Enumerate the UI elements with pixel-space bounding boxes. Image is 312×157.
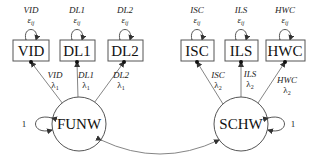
svg-text:ILS: ILS (243, 69, 257, 79)
svg-text:εij: εij (122, 15, 129, 26)
svg-text:ILS: ILS (230, 43, 253, 59)
latent-factor-funw: FUNW (52, 97, 106, 151)
loading-path-isc (197, 62, 223, 104)
anchor-dot-hwc (283, 60, 287, 64)
svg-text:HWC: HWC (274, 5, 296, 15)
variance-label-schw: 1 (291, 119, 296, 129)
indicator-box-vid: VID (13, 40, 49, 61)
loading-label-hwc: HWC λ2 (276, 75, 298, 96)
indicator-box-hwc: HWC (266, 40, 305, 61)
svg-text:λ2: λ2 (214, 80, 221, 91)
svg-text:VID: VID (48, 70, 63, 80)
anchor-dot-dl2 (122, 60, 126, 64)
svg-text:λ1: λ1 (51, 80, 58, 91)
svg-text:DL2: DL2 (116, 5, 134, 15)
variance-label-funw: 1 (22, 119, 27, 129)
error-label-dl1: DL1 εij (68, 5, 85, 26)
anchor-dot-vid (29, 60, 33, 64)
svg-text:HWC: HWC (276, 75, 298, 85)
svg-text:DL1: DL1 (63, 43, 91, 59)
anchor-dot-dl1 (75, 60, 79, 64)
covariance-arc-funw-schw (101, 140, 219, 154)
error-loop-dl2 (119, 30, 130, 41)
loading-path-dl1 (77, 62, 78, 98)
svg-text:εij: εij (28, 15, 35, 26)
error-loop-isc (191, 30, 202, 41)
svg-text:SCHW: SCHW (219, 116, 263, 132)
error-label-hwc: HWC εij (274, 5, 296, 26)
svg-text:DL1: DL1 (77, 70, 94, 80)
error-loop-dl1 (71, 30, 82, 41)
error-loop-ils (235, 30, 246, 41)
indicator-box-dl2: DL2 (108, 40, 143, 61)
svg-text:ISC: ISC (210, 70, 225, 80)
svg-text:λ1: λ1 (82, 80, 89, 91)
svg-text:λ1: λ1 (117, 80, 124, 91)
latent-factor-schw: SCHW (214, 97, 268, 151)
anchor-dot-ils (239, 60, 243, 64)
indicator-box-isc: ISC (181, 40, 214, 61)
error-label-vid: VID εij (24, 5, 39, 26)
loading-label-ils: ILS λ2 (243, 69, 257, 90)
loading-label-vid: VID λ1 (48, 70, 63, 91)
svg-text:ILS: ILS (234, 5, 248, 15)
indicator-box-dl1: DL1 (60, 40, 95, 61)
svg-text:DL1: DL1 (68, 5, 85, 15)
svg-text:DL2: DL2 (111, 43, 139, 59)
svg-text:ISC: ISC (189, 5, 204, 15)
error-loop-vid (25, 30, 36, 41)
loading-label-dl2: DL2 λ1 (112, 70, 130, 91)
loading-label-dl1: DL1 λ1 (77, 70, 94, 91)
svg-text:VID: VID (18, 43, 45, 59)
error-label-dl2: DL2 εij (116, 5, 134, 26)
svg-text:εij: εij (238, 15, 245, 26)
svg-text:DL2: DL2 (112, 70, 130, 80)
svg-text:ISC: ISC (185, 43, 208, 59)
svg-text:FUNW: FUNW (57, 116, 102, 132)
variance-loop-funw (36, 117, 53, 131)
loading-path-vid (31, 62, 63, 104)
svg-text:εij: εij (282, 15, 289, 26)
svg-text:λ2: λ2 (246, 79, 253, 90)
sem-diagram: VID εij DL1 εij DL2 εij ISC εij ILS εij … (0, 0, 312, 157)
svg-text:HWC: HWC (268, 43, 303, 59)
anchor-dot-isc (195, 60, 199, 64)
svg-text:λ2: λ2 (283, 85, 290, 96)
error-label-ils: ILS εij (234, 5, 248, 26)
variance-loop-schw (268, 117, 285, 131)
svg-text:VID: VID (24, 5, 39, 15)
indicator-box-ils: ILS (225, 40, 258, 61)
svg-text:εij: εij (194, 15, 201, 26)
svg-text:εij: εij (74, 15, 81, 26)
error-label-isc: ISC εij (189, 5, 204, 26)
error-loop-hwc (279, 30, 290, 41)
